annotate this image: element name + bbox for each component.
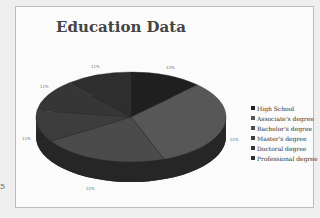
value-label-masters: 11% xyxy=(22,136,31,141)
value-label-doctoral: 11% xyxy=(40,84,49,89)
value-label-bachelors: 21% xyxy=(86,186,95,191)
value-label-high-school: 12% xyxy=(166,65,175,70)
legend-swatch xyxy=(251,106,255,110)
chart-area: Education Data 12% 31% 21% 11% 11% 11% H… xyxy=(15,6,314,208)
legend-item: High School xyxy=(251,103,317,113)
legend-item: Associate's degree xyxy=(251,113,317,123)
legend-swatch xyxy=(251,146,255,150)
edge-mark: 5 xyxy=(0,182,5,191)
legend-swatch xyxy=(251,136,255,140)
value-label-associates: 31% xyxy=(230,137,239,142)
value-label-professional: 11% xyxy=(91,64,100,69)
legend-item: Master's degree xyxy=(251,133,317,143)
legend-swatch xyxy=(251,126,255,130)
legend-item: Bachelor's degree xyxy=(251,123,317,133)
chart-legend: High School Associate's degree Bachelor'… xyxy=(251,103,317,163)
legend-item: Doctoral degree xyxy=(251,143,317,153)
legend-item: Professional degree xyxy=(251,153,317,163)
legend-swatch xyxy=(251,156,255,160)
legend-swatch xyxy=(251,116,255,120)
